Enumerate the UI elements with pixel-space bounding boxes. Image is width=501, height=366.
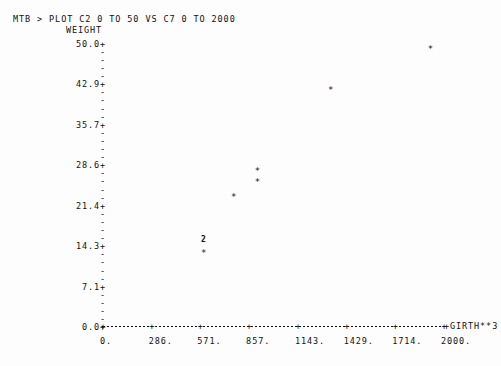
y-axis-minor-tick: - <box>56 218 106 226</box>
y-axis-minor-tick: - <box>56 56 106 64</box>
y-axis-minor-tick: - <box>56 299 106 307</box>
y-axis-minor-tick: - <box>56 267 106 275</box>
terminal-plot-screen: MTB > PLOT C2 0 TO 50 VS C7 0 TO 2000 WE… <box>0 0 501 366</box>
data-point-cluster: 2 <box>201 236 206 244</box>
y-axis-minor-tick: - <box>56 210 106 218</box>
x-axis-tick-label: 2000. <box>441 337 471 345</box>
x-axis-tick-label: 1429. <box>344 337 374 345</box>
y-axis-minor-tick: - <box>56 48 106 56</box>
y-axis-minor-tick: - <box>56 88 106 96</box>
x-axis-baseline <box>103 326 445 327</box>
x-axis-tick-label: 0. <box>100 337 112 345</box>
data-point: * <box>231 193 236 201</box>
data-point: * <box>201 249 206 257</box>
x-axis-tick-label: 1143. <box>295 337 325 345</box>
y-axis-tick-label: 28.6+ <box>56 161 106 169</box>
y-axis-minor-tick: - <box>56 258 106 266</box>
y-axis-minor-tick: - <box>56 105 106 113</box>
y-axis-tick-label: 35.7+ <box>56 121 106 129</box>
x-axis-title: +GIRTH**3 <box>444 322 498 330</box>
data-point: * <box>255 167 260 175</box>
y-axis-minor-tick: - <box>56 177 106 185</box>
x-axis-tick-label: 286. <box>149 337 173 345</box>
y-axis-minor-tick: - <box>56 226 106 234</box>
y-axis-tick-label: 0.0+ <box>56 323 106 331</box>
y-axis-tick-label: 42.9+ <box>56 80 106 88</box>
y-axis-minor-tick: - <box>56 307 106 315</box>
scatter-plot-area: 50.0+----42.9+----35.7+----28.6+----21.4… <box>0 0 501 366</box>
data-point: * <box>328 86 333 94</box>
y-axis-tick-label: 21.4+ <box>56 202 106 210</box>
y-axis-tick-label: 14.3+ <box>56 242 106 250</box>
y-axis-minor-tick: - <box>56 169 106 177</box>
y-axis-minor-tick: - <box>56 291 106 299</box>
data-point: * <box>255 178 260 186</box>
x-axis-tick-label: 857. <box>246 337 270 345</box>
x-axis-tick-label: 571. <box>197 337 221 345</box>
y-axis-minor-tick: - <box>56 186 106 194</box>
y-axis-minor-tick: - <box>56 250 106 258</box>
data-point: * <box>428 45 433 53</box>
y-axis-tick-label: 7.1+ <box>56 283 106 291</box>
x-axis-tick-label: 1714. <box>392 337 422 345</box>
y-axis-minor-tick: - <box>56 145 106 153</box>
y-axis-minor-tick: - <box>56 64 106 72</box>
y-axis-tick-label: 50.0+ <box>56 40 106 48</box>
y-axis-minor-tick: - <box>56 137 106 145</box>
y-axis-minor-tick: - <box>56 96 106 104</box>
y-axis-minor-tick: - <box>56 129 106 137</box>
